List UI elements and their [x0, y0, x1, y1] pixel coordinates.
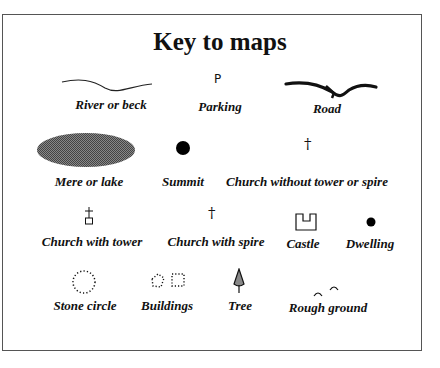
label-church-plain: Church without tower or spire [226, 174, 388, 190]
road-icon [284, 76, 379, 102]
parking-icon: P [214, 72, 221, 86]
rough-ground-icon [312, 284, 342, 298]
label-dwelling: Dwelling [346, 236, 394, 252]
lake-icon [36, 132, 136, 168]
buildings-icon [148, 271, 190, 293]
church-tower-icon [84, 206, 94, 226]
summit-icon [175, 140, 191, 156]
label-tree: Tree [228, 298, 252, 314]
label-summit: Summit [162, 174, 204, 190]
label-lake: Mere or lake [55, 174, 124, 190]
castle-icon [294, 212, 318, 232]
stone-circle-icon [70, 268, 98, 296]
label-parking: Parking [198, 99, 241, 115]
label-buildings: Buildings [141, 298, 193, 314]
page-title: Key to maps [0, 28, 440, 56]
label-road: Road [313, 101, 341, 117]
church-plain-icon: † [304, 135, 312, 153]
river-icon [60, 76, 155, 96]
dwelling-icon [365, 216, 377, 228]
label-church-spire: Church with spire [168, 234, 265, 250]
label-rough-ground: Rough ground [289, 300, 367, 316]
label-castle: Castle [286, 236, 319, 252]
church-spire-icon: † [208, 204, 216, 222]
label-church-tower: Church with tower [42, 234, 142, 250]
label-river: River or beck [75, 97, 146, 113]
tree-icon [232, 268, 246, 294]
label-stone-circle: Stone circle [53, 298, 116, 314]
